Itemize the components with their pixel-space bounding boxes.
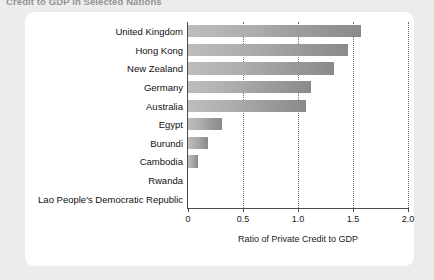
x-tick-label: 0.5 bbox=[237, 214, 250, 224]
category-label: United Kingdom bbox=[115, 26, 183, 37]
x-tick-mark-1.0 bbox=[298, 208, 299, 212]
bar-row: Australia bbox=[188, 96, 408, 115]
bar-row: New Zealand bbox=[188, 59, 408, 78]
x-tick-mark-0 bbox=[188, 208, 189, 212]
x-tick-mark-0.5 bbox=[243, 208, 244, 212]
bar bbox=[188, 100, 306, 112]
bar-row: Lao People's Democratic Republic bbox=[188, 189, 408, 208]
bar bbox=[188, 118, 222, 130]
category-label: Australia bbox=[146, 100, 183, 111]
bar-row: Rwanda bbox=[188, 171, 408, 190]
category-label: Burundi bbox=[150, 137, 183, 148]
chart-panel: United KingdomHong KongNew ZealandGerman… bbox=[25, 12, 414, 266]
bar bbox=[188, 25, 361, 37]
x-tick-label: 1.0 bbox=[292, 214, 305, 224]
bar bbox=[188, 44, 348, 56]
category-label: Lao People's Democratic Republic bbox=[38, 193, 183, 204]
category-label: Germany bbox=[144, 82, 183, 93]
bar-row: Hong Kong bbox=[188, 41, 408, 60]
gridline-2.0 bbox=[408, 22, 409, 208]
bar-row: Cambodia bbox=[188, 152, 408, 171]
category-label: Egypt bbox=[159, 119, 183, 130]
bar-row: Egypt bbox=[188, 115, 408, 134]
bar-row: Germany bbox=[188, 78, 408, 97]
category-label: Rwanda bbox=[148, 175, 183, 186]
category-label: Cambodia bbox=[140, 156, 183, 167]
x-tick-mark-1.5 bbox=[353, 208, 354, 212]
bar bbox=[188, 81, 311, 93]
bar-row: Burundi bbox=[188, 134, 408, 153]
x-tick-label: 0 bbox=[185, 214, 190, 224]
bar bbox=[188, 137, 208, 149]
bar bbox=[188, 155, 198, 167]
bar bbox=[188, 62, 334, 74]
document-title: Credit to GDP in Selected Nations bbox=[6, 0, 162, 7]
x-tick-label: 2.0 bbox=[402, 214, 415, 224]
plot-area: United KingdomHong KongNew ZealandGerman… bbox=[188, 22, 408, 208]
x-tick-mark-2.0 bbox=[408, 208, 409, 212]
category-label: New Zealand bbox=[127, 63, 183, 74]
bar-row: United Kingdom bbox=[188, 22, 408, 41]
x-tick-label: 1.5 bbox=[347, 214, 360, 224]
x-axis-title: Ratio of Private Credit to GDP bbox=[238, 234, 358, 244]
category-label: Hong Kong bbox=[135, 44, 183, 55]
